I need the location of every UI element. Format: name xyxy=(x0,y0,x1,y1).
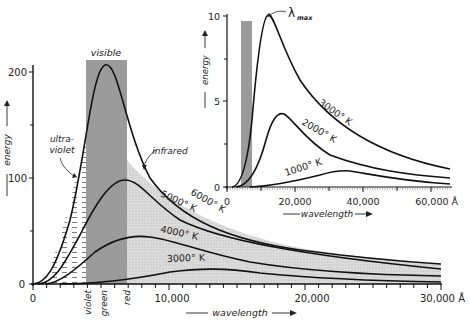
inset-xtick-20000: 20,000 xyxy=(278,196,311,207)
main-ytick-0: 0 xyxy=(19,279,25,290)
svg-text:λ: λ xyxy=(288,6,295,20)
svg-text:wavelength: wavelength xyxy=(212,307,267,318)
chart-canvas: 0 100 200 0 10,000 20,000 30,000 Å energ… xyxy=(0,0,470,327)
inset-xtick-60000: 60,000 Å xyxy=(415,196,458,207)
main-xtick-20000: 20,000 xyxy=(295,293,330,304)
main-xtick-30000: 30,000 Å xyxy=(420,292,465,304)
label-violet-uv: violet xyxy=(50,145,75,155)
main-ytick-100: 100 xyxy=(8,173,27,184)
label-visible: visible xyxy=(91,47,122,58)
main-x-label: wavelength xyxy=(186,307,297,318)
svg-text:wavelength: wavelength xyxy=(301,209,354,219)
main-xtick-0: 0 xyxy=(30,293,36,304)
inset-ytick-5: 5 xyxy=(214,96,220,107)
main-ytick-200: 200 xyxy=(8,67,27,78)
ultraviolet-fill xyxy=(40,140,86,284)
label-infrared: infrared xyxy=(152,146,188,156)
inset-ytick-10: 10 xyxy=(208,11,220,22)
label-red: red xyxy=(122,290,132,305)
label-violet: violet xyxy=(83,290,93,315)
main-x-ticks xyxy=(33,284,441,290)
main-xtick-10000: 10,000 xyxy=(155,293,190,304)
inset-x-label: wavelength xyxy=(283,209,373,219)
inset-y-label: energy xyxy=(200,30,210,108)
label-ultra: ultra- xyxy=(50,134,74,144)
svg-text:max: max xyxy=(297,14,313,22)
label-green: green xyxy=(99,290,109,316)
blackbody-radiation-figure: 0 100 200 0 10,000 20,000 30,000 Å energ… xyxy=(0,0,470,327)
svg-text:energy: energy xyxy=(200,54,210,85)
inset-visible-band xyxy=(241,21,252,187)
inset-xtick-40000: 40,000 xyxy=(346,196,379,207)
label-3000k: 3000° K xyxy=(167,252,206,264)
svg-text:energy: energy xyxy=(2,134,12,166)
inset-ytick-0: 0 xyxy=(214,182,220,193)
inset-chart: 0 5 10 0 20,000 40,000 60,000 Å energy w… xyxy=(200,5,470,219)
uv-arrow xyxy=(60,158,74,176)
inset-xtick-0: 0 xyxy=(224,196,230,207)
